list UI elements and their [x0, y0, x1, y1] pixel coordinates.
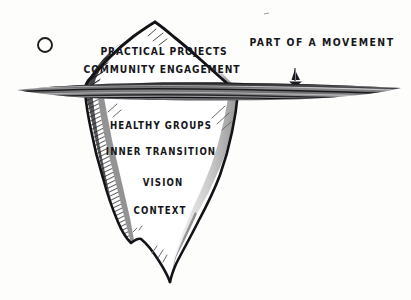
sailboat-icon: [289, 68, 302, 84]
label-inner-transition: INNER TRANSITION: [106, 147, 216, 157]
iceberg-diagram: PART OF A MOVEMENT PRACTICAL PROJECTS CO…: [0, 0, 411, 300]
label-vision: VISION: [143, 178, 183, 188]
label-healthy-groups: HEALTHY GROUPS: [110, 121, 212, 131]
label-part-of-a-movement: PART OF A MOVEMENT: [249, 37, 394, 47]
waterline: [10, 82, 410, 101]
label-context: CONTEXT: [134, 206, 187, 216]
sun-circle-icon: [38, 38, 52, 52]
ink-speck: [264, 13, 269, 14]
label-practical-projects: PRACTICAL PROJECTS: [100, 47, 227, 57]
label-community-engagement: COMMUNITY ENGAGEMENT: [84, 65, 241, 75]
